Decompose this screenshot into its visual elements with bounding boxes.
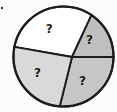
pie-chart-figure: ???? xyxy=(0,0,117,112)
pie-slice-label-left-slice: ? xyxy=(34,66,41,80)
pie-slice-label-top-slice: ? xyxy=(46,22,53,36)
pie-chart: ???? xyxy=(0,0,117,112)
pie-slice-label-right-slice: ? xyxy=(86,33,93,47)
pie-slice-label-bottom-slice: ? xyxy=(79,74,86,88)
